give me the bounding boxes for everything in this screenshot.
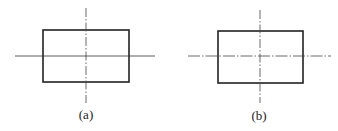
caption-a: (a) <box>79 107 93 123</box>
figure-a <box>15 8 155 103</box>
diagram-canvas <box>0 0 338 131</box>
caption-b: (b) <box>251 108 266 124</box>
rectangle-b <box>218 31 303 83</box>
figure-b <box>188 10 331 103</box>
